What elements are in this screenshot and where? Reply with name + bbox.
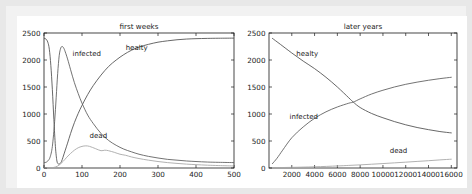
figure-frame: first weeks05001000150020002500010020030… <box>6 6 466 188</box>
y-tick-label: 500 <box>27 137 41 146</box>
x-tick-label: 6000 <box>328 170 347 179</box>
x-tick-label: 10000 <box>372 170 395 179</box>
y-tick-label: 2000 <box>247 56 266 65</box>
x-tick-label: 200 <box>113 170 127 179</box>
x-tick-label: 8000 <box>351 170 370 179</box>
y-tick-label: 2500 <box>247 29 266 38</box>
x-tick-label: 400 <box>189 170 203 179</box>
chart-screenshot: first weeks05001000150020002500010020030… <box>0 0 472 194</box>
x-tick-label: 100 <box>75 170 89 179</box>
x-tick-label: 16000 <box>440 170 463 179</box>
x-tick-label: 2000 <box>283 170 302 179</box>
x-tick-label: 0 <box>42 170 47 179</box>
series-line-dead <box>44 146 234 168</box>
y-tick-label: 2000 <box>22 56 41 65</box>
plot-later-years: later years05001000150020002500200040006… <box>242 16 467 188</box>
y-tick-label: 2500 <box>22 29 41 38</box>
plot-title: later years <box>344 22 383 31</box>
x-tick-label: 500 <box>227 170 241 179</box>
x-tick-label: 14000 <box>417 170 440 179</box>
curve-annotation-dead: dead <box>90 132 107 140</box>
y-tick-label: 0 <box>36 164 41 173</box>
y-tick-label: 0 <box>261 164 266 173</box>
panel-later-years: later years05001000150020002500200040006… <box>242 16 467 188</box>
series-line-infected <box>44 47 234 163</box>
series-line-dead <box>272 159 451 168</box>
x-tick-label: 4000 <box>305 170 324 179</box>
plot-title: first weeks <box>120 22 159 31</box>
figure-canvas: first weeks05001000150020002500010020030… <box>17 16 467 188</box>
x-tick-label: 12000 <box>394 170 417 179</box>
curve-annotation-infected: infected <box>290 113 319 121</box>
y-tick-label: 1000 <box>22 110 41 119</box>
curve-annotation-healty: healty <box>296 50 318 58</box>
panel-first-weeks: first weeks05001000150020002500010020030… <box>17 16 242 188</box>
y-tick-label: 1000 <box>247 110 266 119</box>
y-tick-label: 500 <box>252 137 266 146</box>
curve-annotation-healty: healty <box>126 44 148 52</box>
curve-annotation-infected: infected <box>73 50 102 58</box>
y-tick-label: 1500 <box>247 83 266 92</box>
curve-annotation-dead: dead <box>390 147 407 155</box>
x-tick-label: 300 <box>151 170 165 179</box>
series-group <box>272 38 451 167</box>
plot-first-weeks: first weeks05001000150020002500010020030… <box>17 16 242 188</box>
y-tick-label: 1500 <box>22 83 41 92</box>
